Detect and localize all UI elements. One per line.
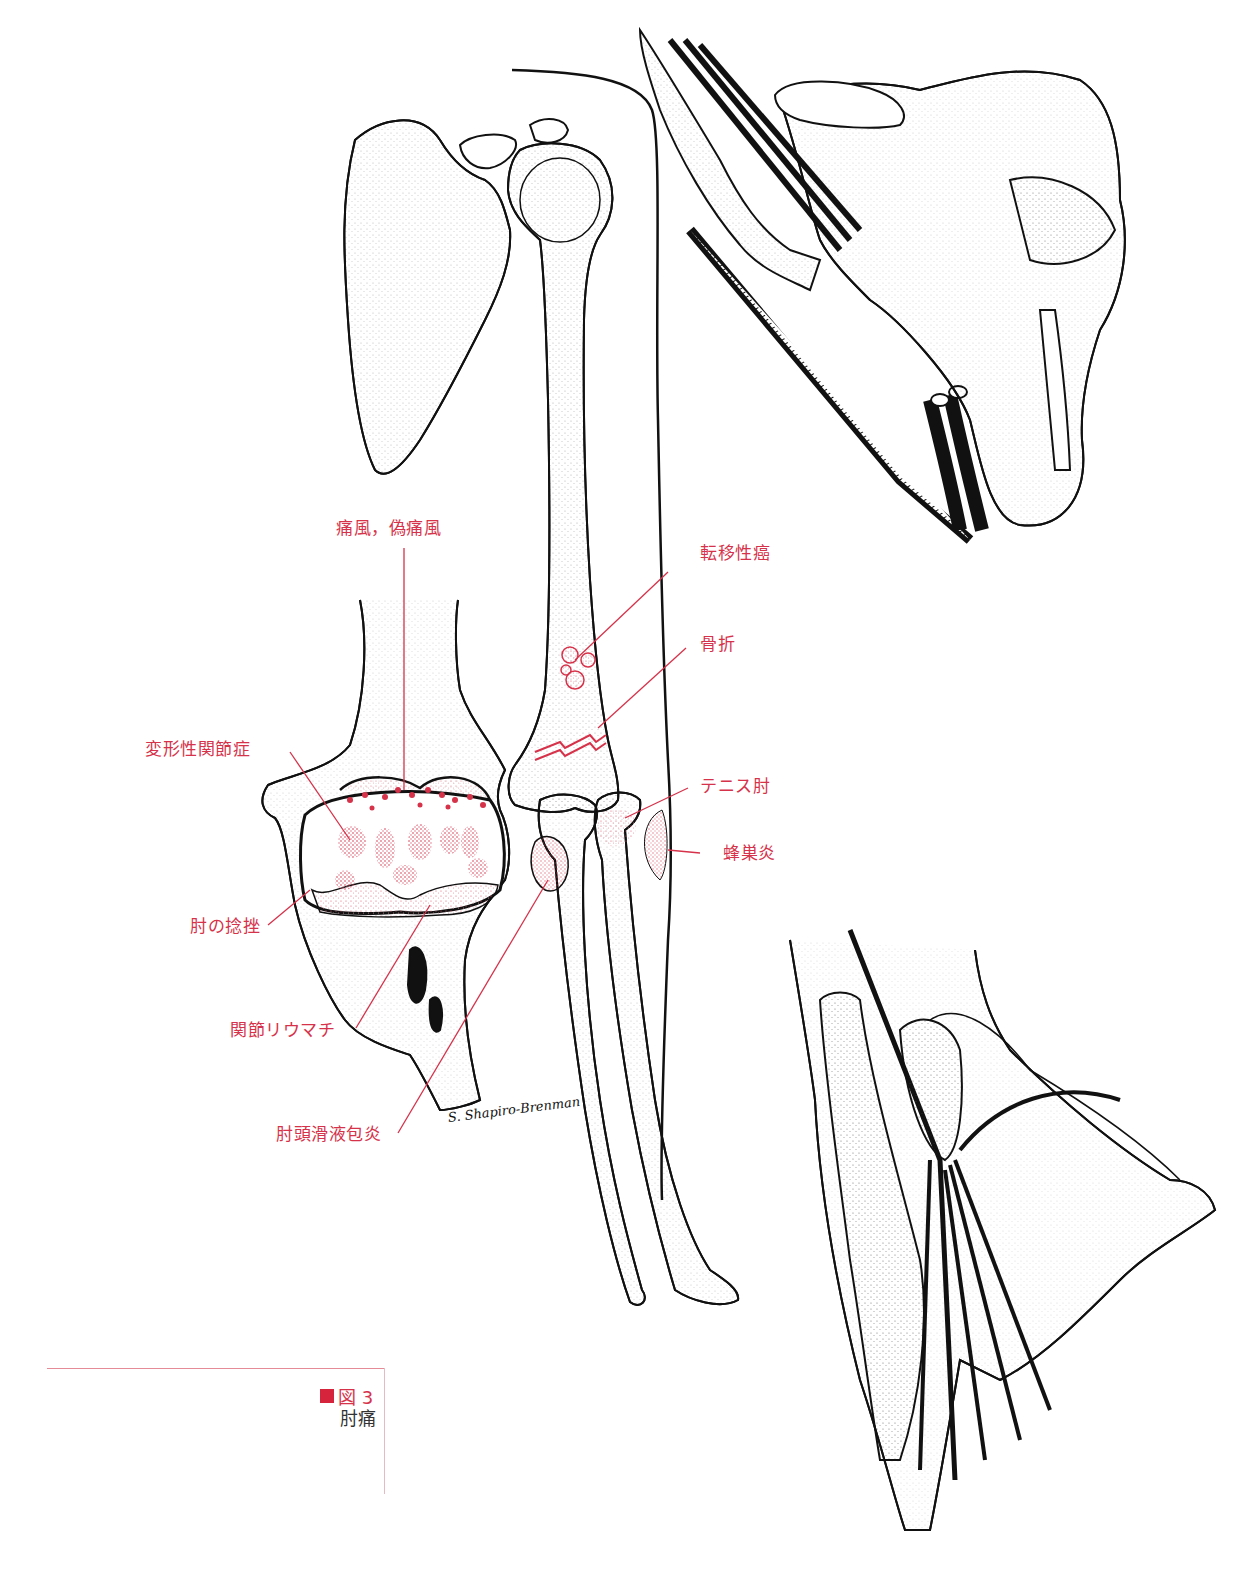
label-elbow-sprain: 肘の捻挫 [190,916,260,936]
figure-title: 肘痛 [340,1404,376,1430]
caption-rule-vertical [384,1368,385,1494]
label-olecranon-bursitis: 肘頭滑液包炎 [276,1124,381,1144]
humerus [508,143,618,812]
label-gout: 痛風，偽痛風 [336,518,441,538]
label-cellulitis: 蜂巣炎 [723,843,776,863]
tennis-elbow-area [597,809,636,846]
label-tennis-elbow: テニス肘 [700,776,770,796]
shoulder-vessels-nerves [640,30,1125,540]
olecranon-bursa [531,836,568,891]
label-rheumatoid-arthritis: 関節リウマチ [230,1020,335,1040]
cellulitis-area [644,810,667,880]
label-metastatic-cancer: 転移性癌 [700,543,770,563]
label-osteoarthritis: 変形性関節症 [145,739,250,759]
figure-marker-square-icon [320,1389,334,1403]
label-fracture: 骨折 [700,634,735,654]
anatomy-illustration [0,0,1260,1587]
forearm-hand-tendons [790,930,1215,1530]
caption-rule-horizontal [47,1368,384,1369]
